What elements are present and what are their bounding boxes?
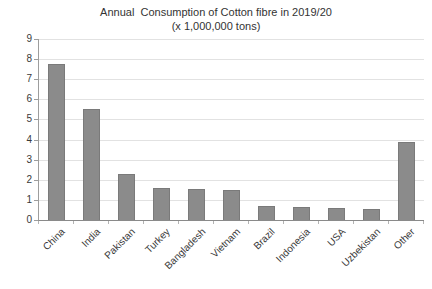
bar-bangladesh	[188, 189, 205, 220]
x-tick-label-india: India	[79, 226, 102, 249]
bar-turkey	[153, 188, 170, 220]
x-tick-label-usa: USA	[325, 226, 347, 248]
x-tick-mark	[353, 221, 354, 224]
y-tick-mark	[34, 119, 38, 120]
y-tick-label: 4	[8, 135, 32, 145]
x-tick-label-other: Other	[392, 226, 417, 251]
y-tick-mark	[34, 79, 38, 80]
plot-area	[38, 39, 424, 221]
x-tick-label-china: China	[41, 226, 67, 252]
y-tick-mark	[34, 140, 38, 141]
x-tick-mark	[178, 221, 179, 224]
x-tick-mark	[388, 221, 389, 224]
y-tick-label: 8	[8, 54, 32, 64]
y-tick-label: 3	[8, 155, 32, 165]
x-tick-label-indonesia: Indonesia	[274, 226, 312, 264]
y-tick-label: 0	[8, 215, 32, 225]
x-tick-label-vietnam: Vietnam	[209, 226, 243, 260]
x-tick-mark	[423, 221, 424, 224]
chart-screenshot: Annual Consumption of Cotton fibre in 20…	[0, 0, 432, 289]
y-tick-mark	[34, 180, 38, 181]
gridline	[39, 59, 424, 60]
x-tick-mark	[38, 221, 39, 224]
y-tick-label: 9	[8, 34, 32, 44]
gridline	[39, 79, 424, 80]
bar-other	[398, 142, 415, 220]
bar-vietnam	[223, 190, 240, 220]
x-tick-label-turkey: Turkey	[143, 226, 172, 255]
x-tick-mark	[213, 221, 214, 224]
y-tick-label: 7	[8, 74, 32, 84]
y-tick-label: 5	[8, 114, 32, 124]
x-tick-mark	[318, 221, 319, 224]
x-tick-mark	[248, 221, 249, 224]
x-tick-mark	[283, 221, 284, 224]
x-tick-mark	[73, 221, 74, 224]
bar-china	[48, 64, 65, 220]
y-tick-mark	[34, 160, 38, 161]
x-tick-mark	[108, 221, 109, 224]
y-tick-label: 6	[8, 94, 32, 104]
x-tick-mark	[143, 221, 144, 224]
gridline	[39, 99, 424, 100]
bar-usa	[328, 208, 345, 220]
gridline	[39, 39, 424, 40]
chart-subtitle: (x 1,000,000 tons)	[0, 20, 432, 32]
x-tick-label-pakistan: Pakistan	[102, 226, 137, 261]
bar-indonesia	[293, 207, 310, 220]
y-tick-mark	[34, 99, 38, 100]
bar-india	[83, 109, 100, 220]
bar-brazil	[258, 206, 275, 220]
bar-pakistan	[118, 174, 135, 220]
y-tick-mark	[34, 59, 38, 60]
bar-uzbekistan	[363, 209, 380, 220]
x-tick-label-brazil: Brazil	[252, 226, 277, 251]
chart-title: Annual Consumption of Cotton fibre in 20…	[0, 6, 432, 18]
y-tick-label: 1	[8, 195, 32, 205]
y-tick-mark	[34, 39, 38, 40]
y-tick-label: 2	[8, 175, 32, 185]
y-tick-mark	[34, 200, 38, 201]
